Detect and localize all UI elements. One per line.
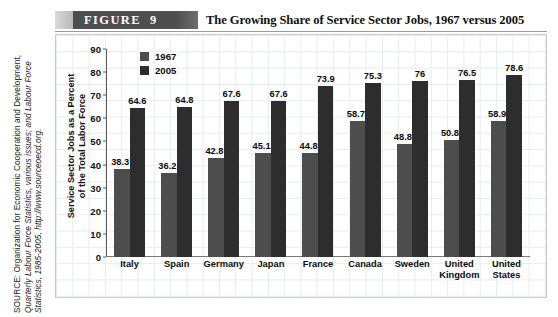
header-divider	[55, 31, 547, 32]
bar-group: 38.364.6	[106, 49, 153, 257]
bar-group: 45.167.6	[247, 49, 294, 257]
x-axis-label: Germany	[200, 259, 247, 281]
figure-band-fade-segment	[176, 11, 198, 29]
y-axis-tick-label: 20	[90, 205, 101, 216]
bar-value-label: 67.6	[222, 89, 240, 99]
bars-layer: 38.364.636.264.842.867.645.167.644.873.9…	[106, 49, 530, 257]
legend-swatch-icon	[140, 66, 149, 75]
x-axis-label: Sweden	[389, 259, 436, 281]
bar-value-label: 44.8	[300, 141, 318, 151]
bar-1967[interactable]: 48.8	[397, 144, 413, 257]
y-axis-tick-label: 10	[90, 228, 101, 239]
legend-swatch-icon	[140, 52, 149, 61]
x-axis-labels: ItalySpainGermanyJapanFranceCanadaSweden…	[106, 259, 530, 281]
bar-1967[interactable]: 58.7	[350, 121, 366, 257]
legend-item-2005[interactable]: 2005	[140, 65, 176, 76]
bar-2005[interactable]: 73.9	[318, 86, 334, 257]
bar-value-label: 36.2	[158, 161, 176, 171]
y-axis-tick-label: 80	[90, 67, 101, 78]
bar-value-label: 78.6	[505, 63, 523, 73]
figure-band: FIGURE 9	[55, 11, 198, 29]
figure-title: The Growing Share of Service Sector Jobs…	[206, 13, 524, 28]
bar-group: 58.775.3	[342, 49, 389, 257]
bar-value-label: 38.3	[111, 157, 129, 167]
y-axis-tick-label: 40	[90, 159, 101, 170]
bar-1967[interactable]: 58.9	[491, 121, 507, 257]
x-axis-label: Canada	[342, 259, 389, 281]
bar-value-label: 67.6	[270, 89, 288, 99]
bar-value-label: 50.8	[441, 128, 459, 138]
bar-1967[interactable]: 42.8	[208, 158, 224, 257]
source-note: SOURCE: Organization for Economic Cooper…	[0, 0, 48, 317]
figure-header: FIGURE 9 The Growing Share of Service Se…	[55, 11, 547, 32]
chart-panel: Service Sector Jobs as a Percent of the …	[55, 34, 547, 298]
bar-1967[interactable]: 50.8	[444, 140, 460, 257]
y-axis-tick-label: 70	[90, 90, 101, 101]
x-axis-label: Italy	[106, 259, 153, 281]
bar-1967[interactable]: 45.1	[255, 153, 271, 257]
bar-2005[interactable]: 78.6	[506, 75, 522, 257]
legend-item-1967[interactable]: 1967	[140, 51, 176, 62]
bar-value-label: 75.3	[364, 71, 382, 81]
y-axis-tick-label: 90	[90, 44, 101, 55]
bar-1967[interactable]: 36.2	[161, 173, 177, 257]
source-line-3: Statistics, 1985-2005, http://www.source…	[33, 0, 43, 313]
bar-value-label: 45.1	[253, 141, 271, 151]
bar-2005[interactable]: 64.8	[177, 107, 193, 257]
source-line-2: Quarterly Labour Force Statistics, vario…	[23, 0, 33, 313]
bar-group: 36.264.8	[153, 49, 200, 257]
bar-2005[interactable]: 64.6	[130, 108, 146, 257]
bar-2005[interactable]: 76	[412, 81, 428, 257]
x-axis-label: France	[294, 259, 341, 281]
bar-1967[interactable]: 38.3	[114, 169, 130, 258]
figure-label: FIGURE	[84, 13, 141, 28]
bar-value-label: 76	[415, 69, 425, 79]
legend-label: 2005	[155, 65, 176, 76]
x-axis-label: UnitedKingdom	[436, 259, 483, 281]
x-axis-label: Spain	[153, 259, 200, 281]
bar-group: 44.873.9	[294, 49, 341, 257]
bar-value-label: 76.5	[458, 68, 476, 78]
bar-group: 48.876	[389, 49, 436, 257]
chart-legend: 19672005	[140, 51, 176, 76]
bar-2005[interactable]: 67.6	[224, 101, 240, 257]
y-axis-tick-label: 30	[90, 182, 101, 193]
bar-2005[interactable]: 76.5	[459, 80, 475, 257]
x-axis-label: Japan	[247, 259, 294, 281]
source-line-1: SOURCE: Organization for Economic Cooper…	[12, 0, 22, 313]
x-axis-label: UnitedStates	[483, 259, 530, 281]
bar-value-label: 58.9	[488, 109, 506, 119]
figure-band-dark-segment: FIGURE 9	[73, 11, 176, 29]
figure-band-light-segment	[55, 11, 73, 29]
bar-2005[interactable]: 75.3	[365, 83, 381, 257]
bar-value-label: 42.8	[205, 146, 223, 156]
y-axis-tick-label: 60	[90, 113, 101, 124]
bar-value-label: 58.7	[347, 109, 365, 119]
bar-group: 42.867.6	[200, 49, 247, 257]
bar-value-label: 73.9	[317, 74, 335, 84]
plot-area: 0102030405060708090 38.364.636.264.842.8…	[106, 49, 530, 257]
bar-1967[interactable]: 44.8	[302, 153, 318, 257]
y-axis-title-line-1: Service Sector Jobs as a Percent	[66, 35, 76, 257]
y-axis-tick-label: 50	[90, 136, 101, 147]
bar-group: 58.978.6	[483, 49, 530, 257]
legend-label: 1967	[155, 51, 176, 62]
bar-value-label: 64.6	[128, 96, 146, 106]
bar-value-label: 64.8	[175, 95, 193, 105]
y-axis-title: Service Sector Jobs as a Percent of the …	[64, 35, 90, 270]
y-axis-tick-label: 0	[96, 252, 101, 263]
figure-number: 9	[150, 13, 156, 28]
bar-group: 50.876.5	[436, 49, 483, 257]
y-axis-title-line-2: of the Total Labor Force	[77, 35, 87, 257]
bar-2005[interactable]: 67.6	[271, 101, 287, 257]
bar-value-label: 48.8	[394, 132, 412, 142]
